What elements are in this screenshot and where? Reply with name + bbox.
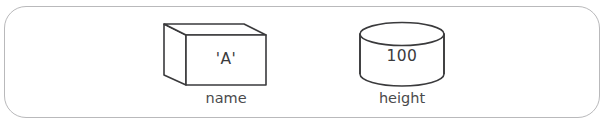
box-label-text: name (166, 90, 286, 106)
shapes-svg-layer (0, 0, 605, 128)
diagram-canvas: 'A' name 100 height (0, 0, 605, 128)
box-value-text: 'A' (186, 50, 266, 68)
cylinder-top-ellipse (360, 23, 444, 46)
cylinder-value-text: 100 (360, 47, 444, 65)
cylinder-label-text: height (342, 90, 462, 106)
